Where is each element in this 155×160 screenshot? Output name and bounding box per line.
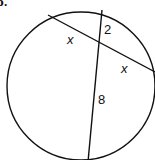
chord-2	[88, 10, 102, 160]
segment-label-x-left: x	[66, 32, 74, 47]
circle	[7, 12, 155, 160]
segment-label-2: 2	[104, 22, 111, 37]
segment-label-8: 8	[98, 92, 105, 107]
chord-1	[48, 15, 155, 72]
intersecting-chords-diagram: x 2 x 8	[0, 0, 155, 160]
segment-label-x-right: x	[120, 61, 128, 76]
